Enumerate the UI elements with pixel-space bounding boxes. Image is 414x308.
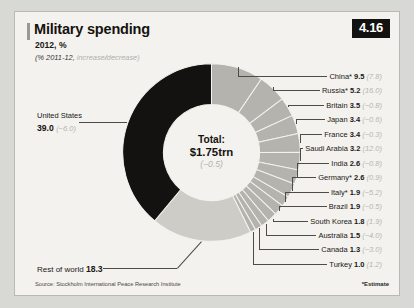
- label-name: Japan: [327, 115, 350, 124]
- label-value: 1.3: [350, 245, 363, 254]
- chart-figure: Military spending 2012, % (% 2011-12, in…: [14, 11, 400, 296]
- label-germany: Germany* 2.6 (0.9): [318, 173, 382, 182]
- label-name: Italy*: [331, 188, 350, 197]
- leader-line: [300, 148, 301, 161]
- label-name: South Korea: [310, 217, 354, 226]
- label-change: (−4.0): [362, 231, 382, 240]
- chart-subtitle: 2012, %: [35, 40, 67, 50]
- figure-number-badge: 4.16: [352, 19, 390, 38]
- leader-line: [300, 134, 301, 143]
- label-china: China* 9.5 (7.8): [329, 72, 382, 81]
- label-change: (−0.8): [362, 101, 382, 110]
- leader-line-rest-of-world: [103, 268, 177, 269]
- label-value: 2.6: [350, 159, 363, 168]
- donut-chart: Total: $1.75trn (−0.5): [119, 60, 304, 245]
- label-india: India 2.6 (−0.8): [331, 159, 382, 168]
- leader-line: [297, 119, 326, 120]
- label-value: 3.4: [350, 130, 363, 139]
- label-value: 1.0: [354, 260, 367, 269]
- label-change: (1.2): [367, 260, 382, 269]
- label-name: Australia: [318, 231, 349, 240]
- label-name: France: [324, 130, 349, 139]
- label-name: Britain: [326, 101, 349, 110]
- label-russia: Russia* 5.2 (16.0): [322, 86, 382, 95]
- label-south-korea: South Korea 1.8 (1.9): [310, 217, 382, 226]
- leader-line: [238, 76, 328, 77]
- leader-line: [273, 218, 274, 220]
- label-change: (−3.0): [362, 245, 382, 254]
- donut-slice: [123, 64, 212, 221]
- label-name: Russia*: [322, 86, 350, 95]
- estimate-footnote: *Estimate: [362, 281, 389, 287]
- label-change: (−0.6): [362, 115, 382, 124]
- label-name: Turkey: [329, 260, 354, 269]
- leader-line-united-states: [79, 122, 127, 123]
- leader-line: [297, 163, 298, 178]
- label-change: (1.9): [367, 217, 382, 226]
- label-name: China*: [329, 72, 354, 81]
- leader-line: [238, 67, 239, 76]
- leader-line: [259, 249, 319, 250]
- label-japan: Japan 3.4 (−0.6): [327, 115, 382, 124]
- donut-svg: [119, 60, 304, 245]
- label-name: India: [331, 159, 349, 168]
- label-change: (−0.3): [362, 130, 382, 139]
- label-canada: Canada 1.3 (−3.0): [321, 245, 382, 254]
- leader-line: [273, 221, 309, 222]
- label-rest-of-world: Rest of world 18.3: [37, 264, 103, 274]
- label-france: France 3.4 (−0.3): [324, 130, 382, 139]
- label-name: Brazil: [329, 202, 350, 211]
- label-change: (12.0): [362, 144, 382, 153]
- leader-line: [289, 105, 325, 106]
- label-change: (−5.2): [362, 188, 382, 197]
- label-value: 5.2: [350, 86, 363, 95]
- leader-line: [253, 264, 327, 265]
- label-united-states-name: United States: [37, 111, 82, 122]
- subnote-increase: increase: [77, 53, 105, 62]
- leader-line: [293, 177, 317, 178]
- leader-line: [266, 224, 267, 235]
- label-rest-of-world-value: 18.3: [86, 264, 103, 274]
- chart-source: Source: Stockholm International Peace Re…: [35, 281, 181, 287]
- label-brazil: Brazil 1.9 (−0.5): [329, 202, 382, 211]
- label-change: (16.0): [362, 86, 382, 95]
- label-value: 9.5: [354, 72, 367, 81]
- label-name: Canada: [321, 245, 349, 254]
- label-value: 3.4: [350, 115, 363, 124]
- label-name: Germany*: [318, 173, 354, 182]
- label-value: 1.9: [350, 202, 363, 211]
- leader-line-rest-of-world: [177, 242, 202, 269]
- leader-line: [259, 229, 260, 250]
- label-britain: Britain 3.5 (−0.8): [326, 101, 382, 110]
- label-change: (−0.5): [362, 202, 382, 211]
- label-change: (0.9): [367, 173, 382, 182]
- subnote-prefix: (% 2011-12,: [35, 53, 75, 62]
- label-change: (7.8): [367, 72, 382, 81]
- leader-line: [279, 206, 280, 211]
- label-united-states-change: (−6.0): [56, 124, 76, 133]
- leader-line: [280, 206, 327, 207]
- leader-line: [301, 148, 303, 149]
- label-turkey: Turkey 1.0 (1.2): [329, 260, 382, 269]
- label-value: 3.2: [350, 144, 363, 153]
- label-value: 3.5: [350, 101, 363, 110]
- leader-line: [298, 163, 330, 164]
- label-value: 1.8: [354, 217, 367, 226]
- label-united-states-value: 39.0: [37, 123, 54, 133]
- label-value: 1.9: [350, 188, 363, 197]
- chart-title: Military spending: [34, 21, 150, 37]
- label-rest-of-world-name: Rest of world: [37, 265, 84, 274]
- label-value: 2.6: [354, 173, 367, 182]
- leader-line: [301, 134, 323, 135]
- label-name: Saudi Arabia: [305, 144, 350, 153]
- label-italy: Italy* 1.9 (−5.2): [331, 188, 382, 197]
- leader-line: [273, 90, 320, 91]
- label-australia: Australia 1.5 (−4.0): [318, 231, 382, 240]
- leader-line: [286, 192, 329, 193]
- label-saudi-arabia: Saudi Arabia 3.2 (12.0): [305, 144, 382, 153]
- title-accent-rule: [27, 23, 30, 40]
- leader-line: [288, 105, 289, 107]
- leader-line: [296, 119, 297, 124]
- leader-line: [266, 235, 317, 236]
- leader-line: [292, 177, 293, 191]
